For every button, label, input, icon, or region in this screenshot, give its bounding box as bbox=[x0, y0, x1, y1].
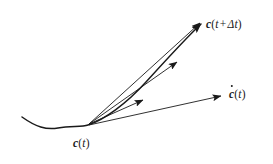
parametric-curve bbox=[22, 24, 201, 129]
curve-derivative-figure: c(t+Δt) c(t) c(t) bbox=[0, 0, 273, 164]
label-c-t: c(t) bbox=[73, 138, 90, 150]
label-c-dot-t: c(t) bbox=[229, 89, 246, 101]
delta-t-term: Δt bbox=[227, 18, 237, 30]
vector-symbol-c-dot: c bbox=[229, 88, 234, 100]
close-paren-tangent: ) bbox=[242, 88, 246, 100]
secant-arrow-short bbox=[89, 100, 143, 124]
label-c-t-plus-delta-t: c(t+Δt) bbox=[206, 19, 242, 31]
derivative-dot-icon bbox=[230, 85, 232, 87]
secant-arrow-mid bbox=[89, 62, 177, 124]
close-paren-end: ) bbox=[238, 18, 242, 30]
close-paren-base: ) bbox=[86, 137, 90, 149]
c-dot-accent-group: c bbox=[229, 89, 234, 101]
secant-arrow-long bbox=[89, 23, 200, 124]
